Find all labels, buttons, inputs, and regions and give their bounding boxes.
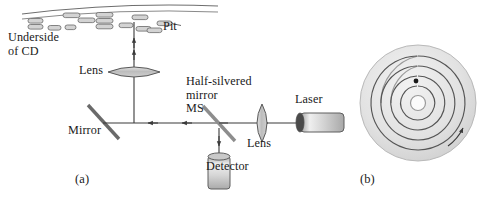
cd-underside-surface (22, 5, 218, 19)
label-lens-upper: Lens (79, 64, 103, 78)
cd-center-hole (411, 96, 426, 111)
label-underside-of-cd: Underside of CD (8, 31, 59, 58)
label-lens-lower: Lens (247, 137, 271, 151)
label-panel-b: (b) (360, 172, 375, 186)
label-laser: Laser (295, 93, 323, 107)
label-panel-a: (a) (75, 172, 89, 186)
lens-upper (108, 67, 160, 77)
track-start-point (414, 79, 419, 84)
label-mirror: Mirror (68, 124, 101, 138)
label-pit: Pit (163, 20, 177, 34)
label-half-silvered-mirror: Half-silvered mirror MS (186, 75, 252, 116)
panel-b (360, 45, 476, 161)
laser (296, 113, 344, 132)
label-detector: Detector (206, 160, 249, 174)
